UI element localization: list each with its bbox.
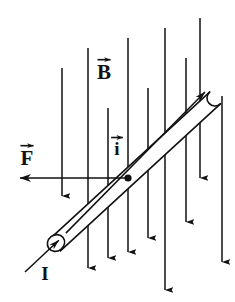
physics-diagram: B i F I bbox=[0, 0, 235, 302]
magnetic-field-label-group: B bbox=[97, 60, 111, 84]
force-label: F bbox=[21, 146, 34, 170]
force-label-group: F bbox=[20, 146, 33, 170]
magnetic-field-label: B bbox=[97, 60, 111, 84]
current-label: I bbox=[41, 263, 48, 284]
diagram-canvas: B i F I bbox=[0, 0, 235, 302]
current-vector-label: i bbox=[114, 138, 119, 159]
force-origin-dot bbox=[124, 174, 131, 181]
